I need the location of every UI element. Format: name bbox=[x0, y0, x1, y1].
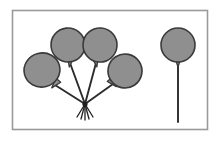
balloon-illustration bbox=[0, 0, 220, 141]
balloon-single-body bbox=[161, 28, 195, 62]
bunch-knot bbox=[82, 101, 87, 106]
illustration-root: Balloon bunch and single balloon illustr… bbox=[0, 0, 220, 141]
